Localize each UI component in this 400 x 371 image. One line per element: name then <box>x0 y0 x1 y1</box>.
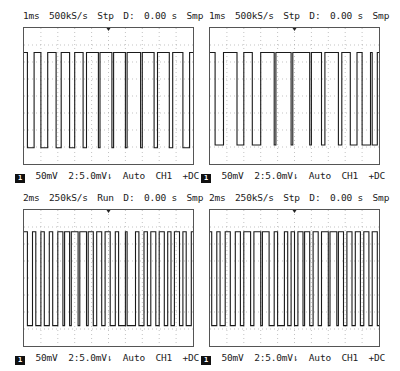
coupling: +DC <box>369 170 386 181</box>
acq-mode: Smp <box>373 10 390 21</box>
timebase: 1ms <box>209 10 226 21</box>
scope-capture-bottom-left: 2ms 250kS/s Run D: 0.00 s Smp 1 50mV 2:5… <box>15 191 201 371</box>
grid-and-trace <box>210 28 379 164</box>
timebase: 2ms <box>23 192 40 203</box>
trigger-level: 2:5.0mV <box>254 170 293 181</box>
trigger-level: 2:5.0mV <box>254 352 293 363</box>
grid-and-trace <box>24 28 193 164</box>
scope-capture-top-right: 1ms 500kS/s Stp D: 0.00 s Smp 1 50mV 2:5… <box>201 9 387 189</box>
delay-label: D: <box>123 10 134 21</box>
scope-footer: 1 50mV 2:5.0mV⇂ Auto CH1 +DC <box>201 169 390 183</box>
delay-label: D: <box>309 192 320 203</box>
scope-capture-bottom-right: 2ms 250kS/s Stp D: 0.00 s Smp 1 50mV 2:5… <box>201 191 387 371</box>
trigger-source: CH1 <box>155 170 172 181</box>
rising-edge-icon: ⇂ <box>293 352 299 363</box>
acquisition-state: Stp <box>283 10 300 21</box>
trigger-source: CH1 <box>341 170 358 181</box>
volts-per-div: 50mV <box>222 352 244 363</box>
trigger-mode: Auto <box>309 170 331 181</box>
scope-footer: 1 50mV 2:5.0mV⇂ Auto CH1 +DC <box>15 351 204 365</box>
rising-edge-icon: ⇂ <box>107 352 113 363</box>
sample-rate: 500kS/s <box>49 10 88 21</box>
trigger-level: 2:5.0mV <box>68 170 107 181</box>
waveform-display <box>209 27 380 165</box>
channel-1-icon: 1 <box>15 174 25 183</box>
sample-rate: 500kS/s <box>235 10 274 21</box>
channel-1-icon: 1 <box>15 356 25 365</box>
sample-rate: 250kS/s <box>49 192 88 203</box>
grid-and-trace <box>210 210 379 346</box>
scope-footer: 1 50mV 2:5.0mV⇂ Auto CH1 +DC <box>15 169 204 183</box>
delay-label: D: <box>309 10 320 21</box>
scope-footer: 1 50mV 2:5.0mV⇂ Auto CH1 +DC <box>201 351 390 365</box>
acquisition-state: Stp <box>283 192 300 203</box>
trigger-source: CH1 <box>155 352 172 363</box>
scope-header: 1ms 500kS/s Stp D: 0.00 s Smp <box>23 9 199 23</box>
coupling: +DC <box>183 170 200 181</box>
channel-1-icon: 1 <box>201 174 211 183</box>
timebase: 1ms <box>23 10 40 21</box>
scope-header: 2ms 250kS/s Run D: 0.00 s Smp <box>23 191 199 205</box>
scope-header: 2ms 250kS/s Stp D: 0.00 s Smp <box>209 191 385 205</box>
delay-label: D: <box>123 192 134 203</box>
acquisition-state: Stp <box>97 10 114 21</box>
trigger-source: CH1 <box>341 352 358 363</box>
delay-value: 0.00 s <box>330 192 363 203</box>
timebase: 2ms <box>209 192 226 203</box>
coupling: +DC <box>183 352 200 363</box>
trigger-mode: Auto <box>123 170 145 181</box>
grid-and-trace <box>24 210 193 346</box>
channel-1-icon: 1 <box>201 356 211 365</box>
delay-value: 0.00 s <box>330 10 363 21</box>
volts-per-div: 50mV <box>36 170 58 181</box>
scope-capture-top-left: 1ms 500kS/s Stp D: 0.00 s Smp 1 50mV 2:5… <box>15 9 201 189</box>
rising-edge-icon: ⇂ <box>107 170 113 181</box>
volts-per-div: 50mV <box>36 352 58 363</box>
sample-rate: 250kS/s <box>235 192 274 203</box>
acquisition-state: Run <box>97 192 114 203</box>
scope-header: 1ms 500kS/s Stp D: 0.00 s Smp <box>209 9 385 23</box>
rising-edge-icon: ⇂ <box>293 170 299 181</box>
trigger-mode: Auto <box>309 352 331 363</box>
trigger-mode: Auto <box>123 352 145 363</box>
waveform-display <box>209 209 380 347</box>
trigger-level: 2:5.0mV <box>68 352 107 363</box>
delay-value: 0.00 s <box>144 10 177 21</box>
coupling: +DC <box>369 352 386 363</box>
delay-value: 0.00 s <box>144 192 177 203</box>
waveform-display <box>23 27 194 165</box>
acq-mode: Smp <box>373 192 390 203</box>
waveform-display <box>23 209 194 347</box>
volts-per-div: 50mV <box>222 170 244 181</box>
